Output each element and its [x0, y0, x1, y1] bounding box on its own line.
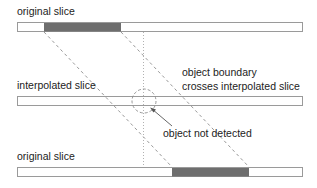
bottom-original-slice-bar — [18, 168, 303, 177]
interpolated-slice-label: interpolated slice — [17, 79, 96, 91]
top-object-region — [44, 23, 121, 32]
top-slice-label: original slice — [17, 5, 75, 17]
interpolated-slice-bar — [18, 97, 303, 106]
boundary-annotation-line2: crosses interpolated slice — [182, 80, 300, 92]
not-detected-annotation: object not detected — [163, 127, 252, 139]
boundary-annotation-line1: object boundary — [182, 66, 257, 78]
bottom-slice-label: original slice — [17, 150, 75, 162]
arrow-line — [152, 109, 172, 126]
bottom-object-region — [172, 168, 249, 177]
